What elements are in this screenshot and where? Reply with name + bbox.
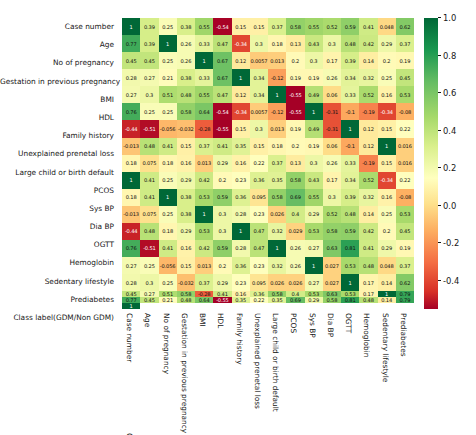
heatmap-cell-value: 1 xyxy=(349,280,352,286)
heatmap-cell-value: 0.45 xyxy=(144,58,155,64)
heatmap-cell-value: -0.31 xyxy=(326,126,338,132)
heatmap-cell: 0.41 xyxy=(140,189,158,206)
heatmap-cell: -0.08 xyxy=(396,189,414,206)
heatmap-cell-value: 0.39 xyxy=(144,24,155,30)
x-axis-label: Sedentary lifestyle xyxy=(380,313,389,382)
heatmap-cell: 0.41 xyxy=(159,240,177,257)
heatmap-cell: 0.36 xyxy=(250,172,268,189)
heatmap-cell: 0.58 xyxy=(286,18,304,35)
heatmap-cell-value: 0.15 xyxy=(235,24,246,30)
heatmap-cell: 0.48 xyxy=(177,297,195,303)
heatmap-cell-value: -0.34 xyxy=(234,41,246,47)
x-axis-label-slot: OGTT xyxy=(341,311,359,431)
heatmap-cell-value: 0.22 xyxy=(254,297,265,303)
heatmap-cell: 0.06 xyxy=(323,138,341,155)
heatmap-cell-value: 0.33 xyxy=(345,160,356,166)
heatmap-cell: 0.16 xyxy=(177,155,195,172)
heatmap-cell-value: 0.48 xyxy=(181,297,192,303)
heatmap-cell: 0.45 xyxy=(140,297,158,303)
heatmap-cell-value: 0.026 xyxy=(270,280,284,286)
heatmap-cell-value: -0.013 xyxy=(123,211,139,217)
heatmap-cell-value: 0.37 xyxy=(199,143,210,149)
heatmap-cell: 0.14 xyxy=(359,206,377,223)
heatmap-cell: 0.26 xyxy=(323,155,341,172)
heatmap-cell: 0.06 xyxy=(323,86,341,103)
heatmap-cell-value: 0.26 xyxy=(290,245,301,251)
heatmap-cell: 1 xyxy=(341,120,359,137)
heatmap-cell: 0.25 xyxy=(159,274,177,291)
colorbar-tick-label: -0.4 xyxy=(438,276,459,286)
x-axis-label-slot: Class label(GDM /Non GDM) xyxy=(122,431,140,435)
heatmap-cell: 0.39 xyxy=(341,189,359,206)
heatmap-cell: 0.075 xyxy=(140,206,158,223)
heatmap-cell-value: 0.37 xyxy=(272,160,283,166)
heatmap-cell: 0.19 xyxy=(396,52,414,69)
heatmap-cell: 0.19 xyxy=(305,69,323,86)
colorbar-tick-mark xyxy=(438,130,441,131)
heatmap-cell-value: 0.14 xyxy=(363,58,374,64)
heatmap-cell: 0.16 xyxy=(378,189,396,206)
heatmap-cell: 0.38 xyxy=(177,189,195,206)
heatmap-cell-value: 0.3 xyxy=(255,41,263,47)
heatmap-cell: 0.63 xyxy=(323,240,341,257)
heatmap-cell-value: 0.41 xyxy=(162,143,173,149)
heatmap-cell: 0.76 xyxy=(122,103,140,120)
x-axis-label: Prediabetes xyxy=(398,313,407,357)
heatmap-cell: 1 xyxy=(305,257,323,274)
heatmap-cell-value: 0.58 xyxy=(327,228,338,234)
heatmap-cell: 0.52 xyxy=(359,172,377,189)
heatmap-cell-value: 0.38 xyxy=(181,211,192,217)
colorbar-tick-mark xyxy=(438,167,441,168)
colorbar-tick-label: 0.0 xyxy=(438,201,456,211)
x-axis-label-slot: BMI xyxy=(195,311,213,431)
heatmap-cell-value: 0.36 xyxy=(235,194,246,200)
heatmap-cell: 1 xyxy=(195,206,213,223)
heatmap-cell: 0.048 xyxy=(378,257,396,274)
heatmap-cell: 0.25 xyxy=(159,172,177,189)
heatmap-cell-value: -0.19 xyxy=(362,160,374,166)
heatmap-cell: 0.42 xyxy=(195,240,213,257)
heatmap-cell: 0.17 xyxy=(323,172,341,189)
heatmap-cell: 0.51 xyxy=(159,86,177,103)
heatmap-cell: 0.35 xyxy=(232,138,250,155)
heatmap-cell: 0.29 xyxy=(305,206,323,223)
heatmap-cell-value: 0.62 xyxy=(400,280,411,286)
heatmap-cell: 0.59 xyxy=(341,18,359,35)
heatmap-cell: 0.41 xyxy=(213,138,231,155)
heatmap-cell: 0.32 xyxy=(268,257,286,274)
heatmap-cell-value: 0.55 xyxy=(199,92,210,98)
heatmap-cell: 0.13 xyxy=(286,35,304,52)
heatmap-cell: 1 xyxy=(122,172,140,189)
heatmap-cell: 0.52 xyxy=(323,206,341,223)
heatmap-cell: 0.53 xyxy=(396,86,414,103)
heatmap-cell: 0.64 xyxy=(195,297,213,303)
heatmap-cell: 0.22 xyxy=(250,155,268,172)
heatmap-cell: 0.19 xyxy=(286,69,304,86)
colorbar-tick-label: 0.2 xyxy=(438,163,456,173)
heatmap-cell-value: 0.2 xyxy=(219,177,227,183)
colorbar-tick-mark xyxy=(438,92,441,93)
heatmap-cell: 0.25 xyxy=(378,69,396,86)
heatmap-cell-value: 0.41 xyxy=(162,245,173,251)
heatmap-cell: 0.3 xyxy=(305,155,323,172)
heatmap-cell-value: 0.32 xyxy=(272,228,283,234)
heatmap-cell-value: 0.34 xyxy=(345,75,356,81)
heatmap-cell: 0.76 xyxy=(122,240,140,257)
heatmap-cell: 0.26 xyxy=(177,35,195,52)
heatmap-cell-value: 1 xyxy=(239,228,242,234)
heatmap-cell-value: 0.34 xyxy=(254,75,265,81)
x-axis-label: Hemoglobin xyxy=(362,313,371,358)
heatmap-cell-value: 0.45 xyxy=(400,228,411,234)
heatmap-cell-value: -0.19 xyxy=(362,109,374,115)
heatmap-cell: 0.47 xyxy=(250,223,268,240)
heatmap-cell: 0.41 xyxy=(359,240,377,257)
heatmap-cell-value: 0.55 xyxy=(308,194,319,200)
heatmap-cell: 0.25 xyxy=(140,257,158,274)
heatmap-cell-value: -0.31 xyxy=(326,109,338,115)
y-axis-label: Dia BP xyxy=(0,218,118,236)
correlation-heatmap-figure: Case numberAgeNo of pregnancyGestation i… xyxy=(0,0,476,435)
heatmap-cell-value: 0.69 xyxy=(290,194,301,200)
heatmap-cell-value: 1 xyxy=(385,143,388,149)
heatmap-cell: 0.34 xyxy=(341,172,359,189)
heatmap-cell: -0.51 xyxy=(140,240,158,257)
